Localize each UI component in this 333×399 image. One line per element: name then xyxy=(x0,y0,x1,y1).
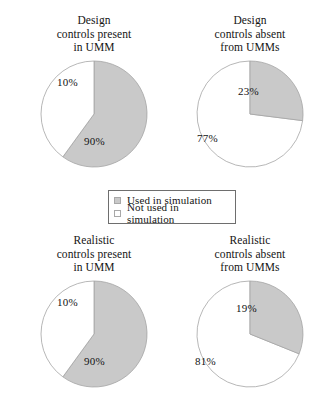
pie-label-used: 90% xyxy=(84,356,105,367)
pie-svg xyxy=(38,58,150,170)
pie-label-used: 90% xyxy=(84,136,105,147)
panel-design-controls-present: Design controls present in UMM 10% 90% xyxy=(14,14,174,170)
pie-chart-realistic-controls-absent: 19% 81% xyxy=(170,278,330,390)
pie-label-not-used: 10% xyxy=(57,77,78,88)
pie-chart-design-controls-present: 10% 90% xyxy=(14,58,174,170)
panel-title: Realistic controls present in UMM xyxy=(14,234,174,275)
pie-chart-realistic-controls-present: 10% 90% xyxy=(14,278,174,390)
panel-title: Design controls absent from UMMs xyxy=(170,14,330,55)
pie-chart-figure: Design controls present in UMM 10% 90% D… xyxy=(0,0,333,399)
pie-svg xyxy=(38,278,150,390)
panel-design-controls-absent: Design controls absent from UMMs 23% 77% xyxy=(170,14,330,170)
panel-title: Realistic controls absent from UMMs xyxy=(170,234,330,275)
pie-label-used: 23% xyxy=(238,86,259,97)
pie-label-used: 19% xyxy=(236,303,257,314)
white-square-icon xyxy=(114,210,121,217)
gray-square-icon xyxy=(114,197,121,204)
pie-svg xyxy=(194,278,306,390)
pie-label-not-used: 10% xyxy=(57,297,78,308)
chart-legend: Used in simulation Not used in simulatio… xyxy=(108,190,236,224)
pie-svg xyxy=(194,58,306,170)
panel-realistic-controls-absent: Realistic controls absent from UMMs 19% … xyxy=(170,234,330,390)
legend-item-not-used: Not used in simulation xyxy=(114,207,229,219)
pie-label-not-used: 81% xyxy=(195,356,216,367)
panel-realistic-controls-present: Realistic controls present in UMM 10% 90… xyxy=(14,234,174,390)
legend-item-label: Not used in simulation xyxy=(127,201,229,225)
pie-chart-design-controls-absent: 23% 77% xyxy=(170,58,330,170)
pie-label-not-used: 77% xyxy=(197,133,218,144)
panel-title: Design controls present in UMM xyxy=(14,14,174,55)
